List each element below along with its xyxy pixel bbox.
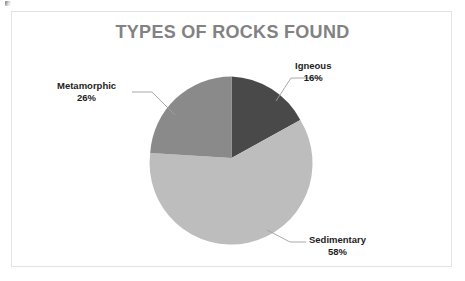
pie-label-metamorphic: Metamorphic 26% — [57, 80, 116, 104]
pie-slice-metamorphic[interactable] — [150, 77, 231, 159]
pie-label-igneous: Igneous 16% — [295, 60, 331, 84]
pie-label-igneous-name: Igneous — [295, 60, 331, 72]
pie-label-metamorphic-percent: 26% — [57, 92, 116, 104]
pie-label-sedimentary: Sedimentary 58% — [309, 234, 366, 258]
pie-chart: Igneous 16% Metamorphic 26% Sedimentary … — [0, 0, 465, 281]
pie-label-igneous-percent: 16% — [295, 72, 331, 84]
pie-label-sedimentary-name: Sedimentary — [309, 234, 366, 246]
pie-chart-svg — [0, 0, 465, 281]
scanned-page: TYPES OF ROCKS FOUND Igneous 16% Metamor… — [0, 0, 465, 281]
pie-label-sedimentary-percent: 58% — [309, 246, 366, 258]
pie-label-metamorphic-name: Metamorphic — [57, 80, 116, 92]
